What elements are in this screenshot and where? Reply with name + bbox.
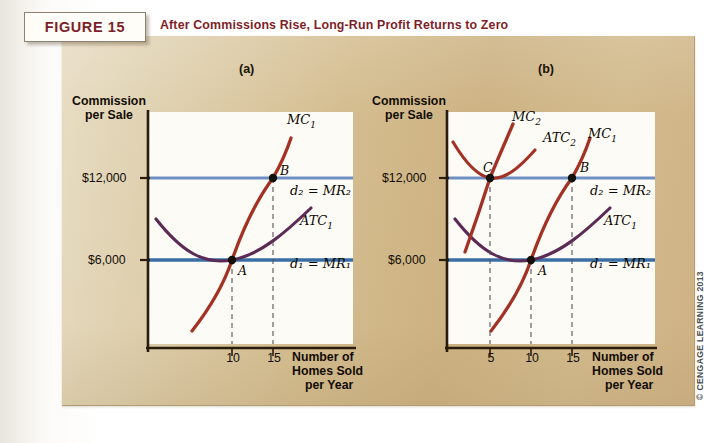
panel-a-y-axis-title: Commission per Sale [66, 94, 152, 122]
panel-b-mr1-label: d₁ = MR₁ [590, 256, 651, 271]
panel-b-point-A-label: A [538, 263, 547, 278]
copyright-notice: © CENGAGE LEARNING 2013 [695, 271, 705, 400]
panel-b-x-axis-title: Number of Homes Sold per Year [592, 350, 684, 392]
panel-a-mr1-label: d₁ = MR₁ [290, 256, 351, 271]
panel-b-ytick-6000: $6,000 [388, 253, 426, 267]
figure-title: After Commissions Rise, Long-Run Profit … [160, 18, 508, 32]
panel-b-point-B-label: B [580, 160, 589, 175]
panel-b-x-axis-title-line3: per Year [592, 378, 684, 392]
panel-a-y-axis-title-line2: per Sale [66, 108, 152, 122]
panel-b-point-C-label: C [483, 160, 493, 175]
panel-b-atc1-label: ATC1 [604, 213, 637, 231]
panel-a-mc1-label-text: MC [287, 112, 310, 127]
panel-a-mc1-label-sub: 1 [310, 120, 316, 130]
panel-b-atc1-label-sub: 1 [631, 221, 637, 231]
panel-b-mc1-label-sub: 1 [611, 134, 617, 144]
panel-b-xtick-15: 15 [563, 351, 583, 365]
panel-b-atc1-label-text: ATC [604, 213, 631, 228]
panel-b-xtick-10: 10 [522, 351, 542, 365]
panel-a-xtick-10: 10 [223, 351, 243, 365]
panel-a-x-axis-title: Number of Homes Sold per Year [292, 350, 382, 392]
panel-a-x-axis-title-line2: Homes Sold [292, 364, 382, 378]
figure-number-badge: FIGURE 15 [24, 12, 146, 42]
panel-b-mc1-label: MC1 [588, 126, 617, 144]
panel-a-point-A-label: A [238, 263, 247, 278]
panel-a-x-axis-title-line3: per Year [292, 378, 382, 392]
panel-b-letter: (b) [538, 62, 554, 76]
panel-b-x-axis-title-line2: Homes Sold [592, 364, 684, 378]
panel-a-xtick-15: 15 [264, 351, 284, 365]
panel-b-xtick-5: 5 [481, 351, 501, 365]
panel-a-y-axis-title-line1: Commission [66, 94, 152, 108]
panel-b-atc2-label-sub: 2 [570, 138, 576, 148]
figure-root: FIGURE 15 After Commissions Rise, Long-R… [0, 0, 725, 443]
panel-a-point-B-label: B [280, 163, 289, 178]
figure-number-label: FIGURE 15 [45, 19, 125, 35]
panel-a-letter: (a) [239, 62, 254, 76]
panel-a-atc1-label: ATC1 [300, 213, 333, 231]
panel-a-atc1-label-text: ATC [300, 213, 327, 228]
panel-b-ytick-12000: $12,000 [382, 171, 426, 185]
panel-b-y-axis-title-line2: per Sale [366, 108, 452, 122]
panel-a-mc1-label: MC1 [287, 112, 316, 130]
panel-a-x-axis-title-line1: Number of [292, 350, 382, 364]
panel-b-atc2-label: ATC2 [543, 130, 576, 148]
panel-b-mc2-label-text: MC [512, 109, 535, 124]
panel-b-mc2-label: MC2 [512, 109, 541, 127]
panel-b-atc2-label-text: ATC [543, 130, 570, 145]
panel-a-mr2-label: d₂ = MR₂ [290, 183, 351, 198]
panel-b-mr2-label: d₂ = MR₂ [590, 183, 651, 198]
panel-a-ytick-12000: $12,000 [82, 171, 126, 185]
panel-b-x-axis-title-line1: Number of [592, 350, 684, 364]
panel-a-ytick-6000: $6,000 [88, 253, 126, 267]
panel-b-mc1-label-text: MC [588, 126, 611, 141]
panel-b-y-axis-title-line1: Commission [366, 94, 452, 108]
copyright-wrap: © CENGAGE LEARNING 2013 [705, 250, 719, 400]
panel-a-atc1-label-sub: 1 [327, 221, 333, 231]
panel-b-y-axis-title: Commission per Sale [366, 94, 452, 122]
panel-b-mc2-label-sub: 2 [535, 117, 541, 127]
